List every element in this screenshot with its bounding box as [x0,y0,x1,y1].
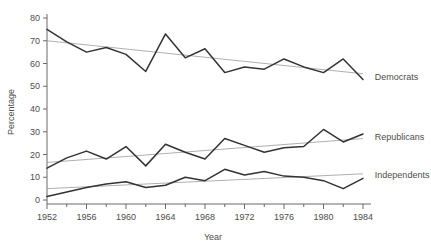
x-tick-label: 1960 [116,212,136,222]
x-tick-label: 1968 [195,212,215,222]
y-axis-tick-labels: 01020304050607080 [30,13,40,205]
data-line-independents [47,169,363,196]
chart-container: 01020304050607080 Percentage 19521956196… [0,0,431,246]
y-tick-label: 70 [30,36,40,46]
series-label-democrats: Democrats [375,72,419,82]
y-tick-label: 40 [30,104,40,114]
trend-lines-group [47,41,363,189]
y-axis-ticks [43,18,47,200]
x-axis-ticks [47,204,363,209]
y-tick-label: 50 [30,81,40,91]
series-label-republicans: Republicans [375,132,425,142]
y-tick-label: 60 [30,59,40,69]
x-tick-label: 1964 [155,212,175,222]
x-tick-label: 1976 [274,212,294,222]
x-axis-tick-labels: 195219561960196419681972197619801984 [37,212,373,222]
x-tick-label: 1972 [234,212,254,222]
x-tick-label: 1980 [313,212,333,222]
y-axis-title: Percentage [6,89,16,135]
series-labels-group: DemocratsRepublicansIndependents [375,72,430,180]
y-tick-label: 0 [35,195,40,205]
series-label-independents: Independents [375,170,430,180]
data-line-democrats [47,29,363,79]
line-chart: 01020304050607080 Percentage 19521956196… [0,0,431,246]
data-line-republicans [47,129,363,168]
x-axis: 195219561960196419681972197619801984 Yea… [37,204,373,242]
y-tick-label: 10 [30,172,40,182]
x-tick-label: 1952 [37,212,57,222]
x-tick-label: 1956 [76,212,96,222]
x-tick-label: 1984 [353,212,373,222]
y-tick-label: 20 [30,150,40,160]
x-axis-title: Year [204,232,222,242]
y-tick-label: 80 [30,13,40,23]
y-tick-label: 30 [30,127,40,137]
trend-line-democrats [47,41,363,74]
y-axis: 01020304050607080 Percentage [6,13,47,205]
data-lines-group [47,29,363,196]
